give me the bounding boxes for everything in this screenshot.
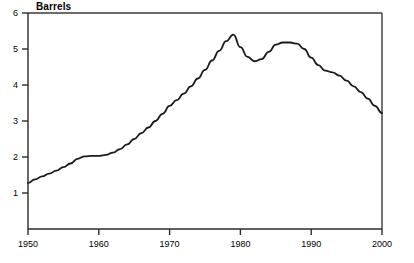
y-axis-ticks xyxy=(22,13,28,193)
y-axis-tick-labels: 123456 xyxy=(13,8,18,198)
x-axis-tick-label: 1980 xyxy=(230,239,250,249)
x-axis-tick-label: 1950 xyxy=(18,239,38,249)
y-axis-tick-label: 6 xyxy=(13,8,18,18)
x-axis-tick-label: 1960 xyxy=(89,239,109,249)
y-axis-tick-label: 5 xyxy=(13,44,18,54)
data-series-line xyxy=(28,35,382,183)
y-axis-tick-label: 1 xyxy=(13,188,18,198)
line-chart: 123456 195019601970198019902000 xyxy=(0,0,414,263)
y-axis-tick-label: 3 xyxy=(13,116,18,126)
x-axis-tick-labels: 195019601970198019902000 xyxy=(18,239,392,249)
y-axis-tick-label: 2 xyxy=(13,152,18,162)
x-axis-tick-label: 1970 xyxy=(160,239,180,249)
y-axis-tick-label: 4 xyxy=(13,80,18,90)
x-axis-ticks xyxy=(28,229,382,235)
chart-container: Barrels 123456 195019601970198019902000 xyxy=(0,0,414,263)
x-axis-tick-label: 1990 xyxy=(301,239,321,249)
x-axis-tick-label: 2000 xyxy=(372,239,392,249)
